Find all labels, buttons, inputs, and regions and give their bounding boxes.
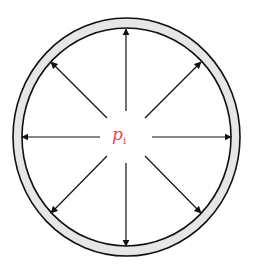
- pressure-symbol: p: [112, 124, 123, 144]
- pressure-vessel-diagram: [0, 0, 258, 271]
- pressure-label: pi: [112, 124, 126, 146]
- pressure-subscript: i: [123, 135, 126, 146]
